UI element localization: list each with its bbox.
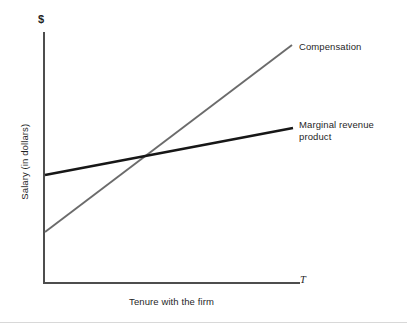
series-label-compensation: Compensation	[299, 41, 361, 53]
series-line-compensation	[45, 45, 292, 232]
y-axis-tip-label: $	[38, 14, 44, 26]
series-label-marginal-revenue-product: Marginal revenue product	[299, 119, 374, 142]
x-axis-tip-label: T	[300, 274, 306, 286]
x-axis-title: Tenure with the firm	[43, 296, 300, 308]
economics-figure: $ T Compensation Marginal revenue produc…	[0, 0, 407, 330]
figure-bottom-rule	[0, 322, 407, 323]
y-axis-title: Salary (in dollars)	[19, 92, 31, 232]
series-line-marginal-revenue-product	[45, 128, 293, 175]
